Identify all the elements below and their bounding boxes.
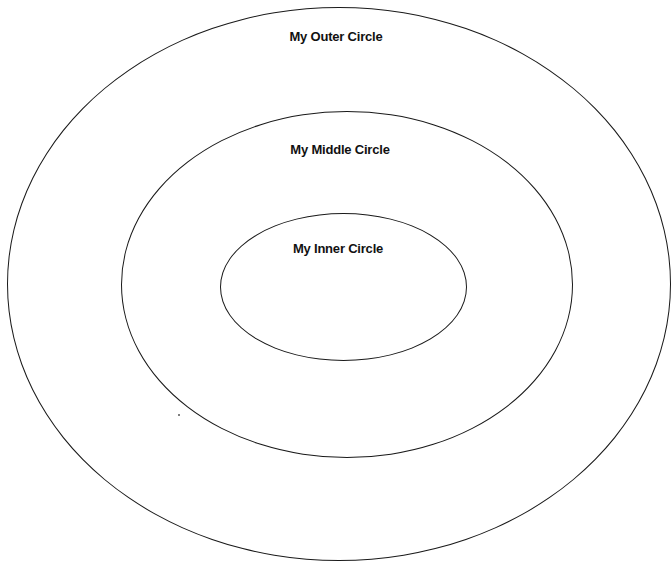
concentric-circles-diagram: My Outer Circle My Middle Circle My Inne… xyxy=(0,0,672,565)
inner-circle xyxy=(220,213,467,361)
scan-artifact-dot xyxy=(178,414,180,416)
inner-circle-label: My Inner Circle xyxy=(293,241,383,256)
outer-circle-label: My Outer Circle xyxy=(289,29,382,44)
middle-circle-label: My Middle Circle xyxy=(290,142,389,157)
